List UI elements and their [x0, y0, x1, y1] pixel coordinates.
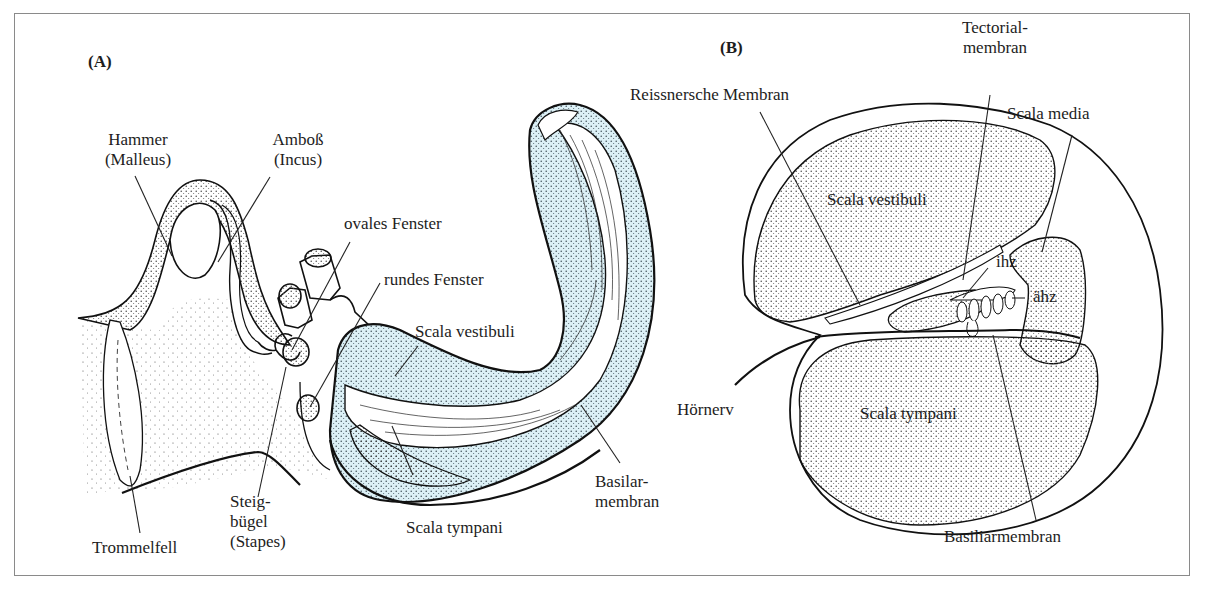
label-amboss-line1: Amboß	[258, 130, 338, 150]
label-tectorial-line2: membran	[945, 38, 1045, 58]
label-scala-vestibuli-a: Scala vestibuli	[415, 322, 515, 342]
label-basiliarmembran: Basiliarmembran	[944, 527, 1061, 547]
label-reissnersche-membran: Reissnersche Membran	[630, 85, 789, 105]
label-steigbuegel-line1: Steig-	[230, 492, 286, 512]
label-scala-media: Scala media	[1007, 104, 1090, 124]
label-steigbuegel: Steig- bügel (Stapes)	[230, 492, 286, 552]
label-amboss: Amboß (Incus)	[258, 130, 338, 170]
label-basilarmembran-line1: Basilar-	[595, 472, 659, 492]
label-tectorial-line1: Tectorial-	[945, 18, 1045, 38]
label-scala-tympani-a: Scala tympani	[406, 518, 503, 538]
label-trommelfell: Trommelfell	[92, 538, 177, 558]
label-basilarmembran-line2: membran	[595, 492, 659, 512]
label-ovales-fenster: ovales Fenster	[344, 214, 442, 234]
label-hoernerv: Hörnerv	[677, 400, 734, 420]
label-hammer-line2: (Malleus)	[88, 150, 188, 170]
panel-b-drawing	[735, 104, 1163, 535]
panel-b-tag: (B)	[720, 38, 743, 58]
label-steigbuegel-line2: bügel	[230, 512, 286, 532]
label-aehz: ähz	[1033, 287, 1057, 307]
label-scala-vestibuli-b: Scala vestibuli	[827, 190, 927, 210]
label-hammer: Hammer (Malleus)	[88, 130, 188, 170]
label-rundes-fenster: rundes Fenster	[384, 270, 484, 290]
label-hammer-line1: Hammer	[88, 130, 188, 150]
label-basilarmembran: Basilar- membran	[595, 472, 659, 512]
label-steigbuegel-line3: (Stapes)	[230, 532, 286, 552]
panel-a-tag: (A)	[88, 52, 112, 72]
label-amboss-line2: (Incus)	[258, 150, 338, 170]
label-ihz: ihz	[996, 252, 1017, 272]
label-scala-tympani-b: Scala tympani	[860, 404, 957, 424]
label-tectorialmembran: Tectorial- membran	[945, 18, 1045, 58]
